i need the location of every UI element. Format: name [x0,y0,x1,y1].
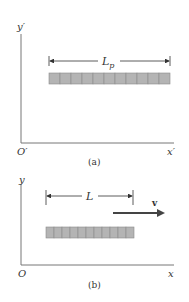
rod-segment [82,73,93,84]
rod-segment [71,73,82,84]
rod-at-rest [49,73,170,84]
rod-segment [94,227,102,238]
rod-segment [102,227,110,238]
rod-segment [46,227,54,238]
rod-segment [137,73,148,84]
rod-segment [118,227,126,238]
rod-segment [78,227,86,238]
rod-segment [60,73,71,84]
rod-segment [54,227,62,238]
origin-label: O [18,268,26,279]
rod-moving [46,227,134,238]
velocity-vector: v [113,198,163,213]
caption-a: (a) [88,157,100,167]
contracted-length-dimension: L [46,190,133,205]
rod-segment [104,73,115,84]
proper-length-dimension: Lp [49,55,170,70]
relativity-diagram: y′ O′ x′ (a) Lp y O x (b) L [0,0,189,302]
rod-segment [62,227,70,238]
velocity-label: v [151,198,158,208]
y-axis-label: y [18,174,25,185]
origin-prime-label: O′ [17,146,28,157]
y-prime-axis-label: y′ [16,21,26,32]
x-axis-label: x [168,268,174,279]
rod-segment [49,73,60,84]
rod-segment [126,73,137,84]
panel-b: y O x (b) L v [18,174,174,290]
rod-segment [86,227,94,238]
rod-segment [126,227,134,238]
rod-segment [70,227,78,238]
rod-segment [115,73,126,84]
x-prime-axis-label: x′ [167,146,176,157]
proper-length-label: Lp [101,55,114,70]
rod-segment [159,73,170,84]
rod-segment [148,73,159,84]
contracted-length-label: L [85,190,93,203]
rod-segment [110,227,118,238]
panel-a: y′ O′ x′ (a) Lp [16,21,176,167]
rod-segment [93,73,104,84]
caption-b: (b) [88,280,101,290]
